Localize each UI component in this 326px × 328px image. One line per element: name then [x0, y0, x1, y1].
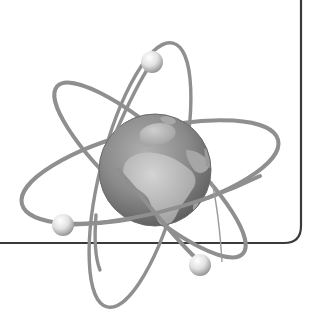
electron-bottom-right [189, 254, 211, 276]
electron-top [141, 51, 163, 73]
illustration-canvas [0, 0, 326, 328]
atom-globe-illustration [0, 0, 326, 328]
electron-left [52, 214, 74, 236]
